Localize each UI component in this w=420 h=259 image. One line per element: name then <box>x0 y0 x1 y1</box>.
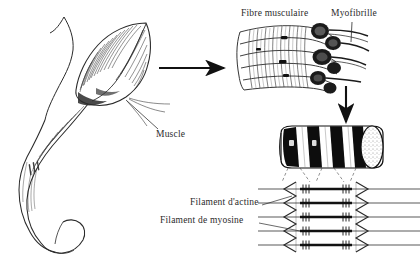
label-muscle: Muscle <box>156 130 185 140</box>
figure-canvas: Muscle Fibre musculaire Myofibrille Fila… <box>0 0 420 259</box>
muscle-fiber-bundle <box>237 22 369 94</box>
label-myofibrille: Myofibrille <box>331 9 377 19</box>
label-filament-myosine: Filament de myosine <box>160 216 243 226</box>
myofibril-cylinder <box>280 126 384 182</box>
limb-illustration <box>19 17 170 253</box>
sarcomere-array <box>258 182 420 252</box>
label-fibre-musculaire: Fibre musculaire <box>241 9 308 19</box>
label-filament-actine: Filament d'actine <box>190 198 259 208</box>
myofibril-ends <box>310 23 369 94</box>
